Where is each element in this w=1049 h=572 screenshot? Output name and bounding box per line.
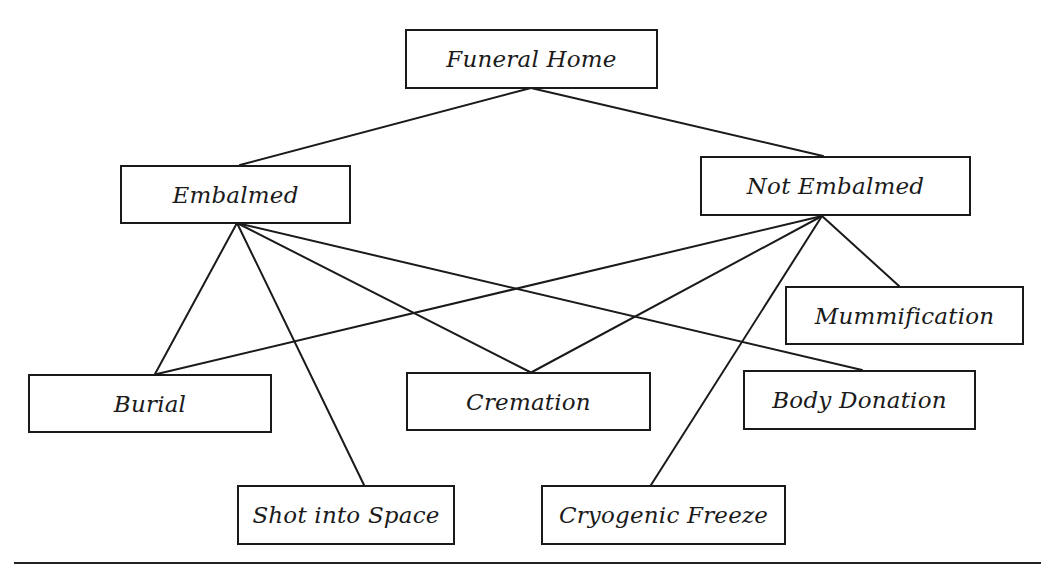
- diagram-canvas: Funeral Home Embalmed Not Embalmed Mummi…: [0, 0, 1049, 572]
- node-label: Shot into Space: [252, 502, 439, 528]
- node-label: Cremation: [466, 389, 591, 415]
- bottom-divider: [14, 562, 1041, 564]
- node-cryogenic-freeze: Cryogenic Freeze: [541, 485, 786, 545]
- node-label: Mummification: [815, 303, 995, 329]
- node-embalmed: Embalmed: [120, 165, 351, 224]
- edge-not_embalmed-to-cremation: [532, 216, 822, 372]
- node-label: Burial: [114, 391, 186, 417]
- node-shot-into-space: Shot into Space: [237, 485, 455, 545]
- edge-funeral_home-to-not_embalmed: [531, 88, 823, 156]
- edge-not_embalmed-to-mummification: [822, 216, 899, 286]
- node-body-donation: Body Donation: [743, 370, 976, 430]
- node-label: Cryogenic Freeze: [559, 502, 768, 528]
- edge-funeral_home-to-embalmed: [240, 88, 531, 165]
- node-cremation: Cremation: [406, 372, 651, 431]
- node-mummification: Mummification: [785, 286, 1024, 345]
- node-label: Embalmed: [172, 182, 298, 208]
- edge-not_embalmed-to-cryogenic_freeze: [651, 216, 822, 485]
- node-label: Not Embalmed: [747, 173, 924, 199]
- node-label: Body Donation: [772, 387, 946, 413]
- edge-embalmed-to-burial: [155, 223, 237, 374]
- edge-embalmed-to-shot_into_space: [237, 223, 364, 485]
- node-label: Funeral Home: [446, 46, 616, 72]
- edge-embalmed-to-cremation: [237, 223, 530, 372]
- node-not-embalmed: Not Embalmed: [700, 156, 971, 216]
- node-burial: Burial: [28, 374, 272, 433]
- node-funeral-home: Funeral Home: [405, 29, 658, 89]
